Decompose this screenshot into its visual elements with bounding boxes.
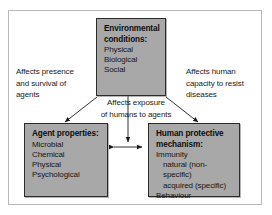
edge-label-line-2: of humans to agents — [76, 109, 196, 121]
edge-label-env-to-human: Affects human capacity to resist disease… — [186, 66, 264, 101]
node-human-protective-mechanism[interactable]: Human protective mechanism: Immunity nat… — [148, 123, 240, 197]
node-item-natural-non-specific: natural (non-specific) — [156, 160, 234, 180]
node-environmental-conditions[interactable]: Environmental conditions: Physical Biolo… — [96, 18, 166, 96]
node-title-line-1: Human protective — [156, 129, 234, 140]
node-item-social: Social — [104, 65, 160, 75]
node-agent-properties-content: Agent properties: Microbial Chemical Phy… — [25, 124, 107, 184]
node-title-line-1: Environmental — [104, 24, 160, 35]
node-item-psychological: Psychological — [32, 170, 102, 180]
edge-label-line-1: Affects presence — [16, 66, 96, 78]
edge-label-line-2: capacity to resist — [186, 78, 264, 90]
node-title-line-2: conditions: — [104, 35, 160, 46]
node-title-agent-properties: Agent properties: — [32, 129, 102, 140]
node-item-acquired-specific: acquired (specific) — [156, 181, 234, 191]
node-item-physical: Physical — [104, 45, 160, 55]
node-item-microbial: Microbial — [32, 140, 102, 150]
node-human-protective-mechanism-content: Human protective mechanism: Immunity nat… — [149, 124, 239, 205]
edge-label-line-1: Affects human — [186, 66, 264, 78]
node-item-physical: Physical — [32, 160, 102, 170]
node-item-chemical: Chemical — [32, 150, 102, 160]
edge-label-line-1: Affects exposure — [76, 97, 196, 109]
node-item-immunity: Immunity — [156, 150, 234, 160]
edge-label-line-3: diseases — [186, 89, 264, 101]
node-environmental-conditions-content: Environmental conditions: Physical Biolo… — [97, 19, 165, 80]
edge-label-line-2: and survival of — [16, 78, 96, 90]
node-title-line-2: mechanism: — [156, 140, 234, 151]
node-item-biological: Biological — [104, 55, 160, 65]
edge-label-env-to-agent: Affects presence and survival of agents — [16, 66, 96, 101]
node-agent-properties[interactable]: Agent properties: Microbial Chemical Phy… — [24, 123, 108, 197]
diagram-canvas: Environmental conditions: Physical Biolo… — [0, 0, 272, 215]
node-item-behaviour: Behaviour — [156, 191, 234, 201]
edge-label-env-to-exposure: Affects exposure of humans to agents — [76, 97, 196, 120]
